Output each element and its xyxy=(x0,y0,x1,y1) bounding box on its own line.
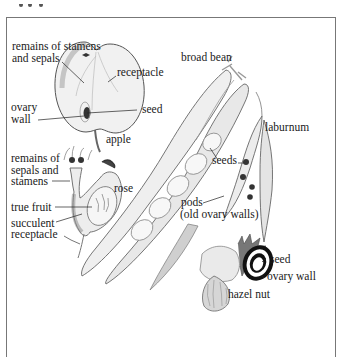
label-apple-seed: seed xyxy=(142,104,162,115)
label-rose-succulent-line2: receptacle xyxy=(11,229,58,240)
label-hazel-ovary-wall: ovary wall xyxy=(267,271,316,282)
label-apple-remains-line1: remains of stamens xyxy=(12,41,101,52)
label-apple-remains-line2: and sepals xyxy=(12,53,60,64)
label-rose-true-fruit: true fruit xyxy=(11,202,52,213)
label-hazel-seed: seed xyxy=(270,254,290,265)
label-apple: apple xyxy=(106,134,131,145)
label-rose-remains-line3: stamens xyxy=(11,176,48,187)
label-hazel-nut: hazel nut xyxy=(228,289,270,300)
label-rose-remains-line1: remains of xyxy=(11,153,60,164)
label-pods-line2: (old ovary walls) xyxy=(180,209,259,220)
label-seeds: seeds xyxy=(212,155,237,166)
label-apple-ovary-wall-line1: ovary xyxy=(11,102,37,113)
label-pods-line1: pods xyxy=(181,197,203,208)
label-laburnum: laburnum xyxy=(265,122,309,133)
label-broad-bean: broad bean xyxy=(181,52,232,63)
label-apple-ovary-wall-line2: wall xyxy=(11,114,31,125)
label-rose: rose xyxy=(114,183,133,194)
label-apple-receptacle: receptacle xyxy=(117,67,164,78)
